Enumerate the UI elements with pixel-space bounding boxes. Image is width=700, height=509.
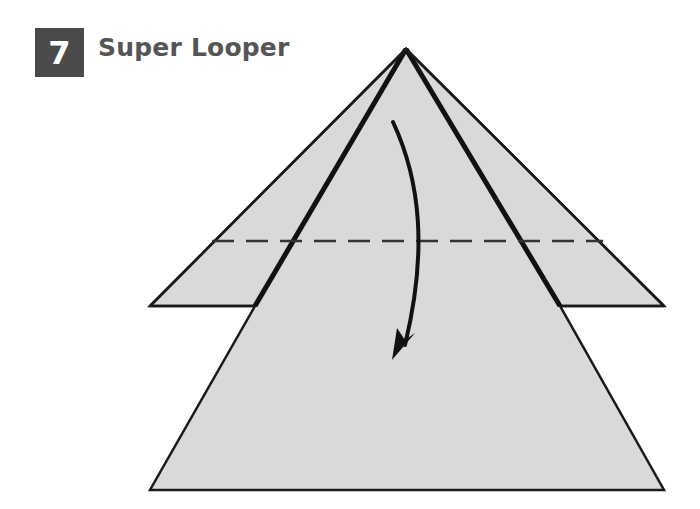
folding-diagram bbox=[0, 0, 700, 509]
